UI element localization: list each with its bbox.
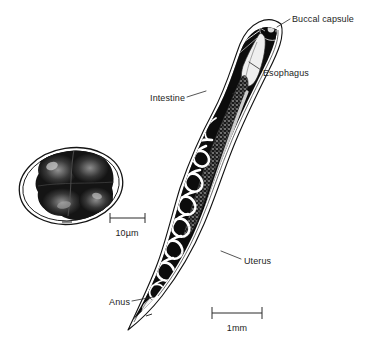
scale-bar-worm: 1mm (212, 307, 262, 333)
tail-tick (146, 314, 152, 316)
scale-bar-egg-label: 10µm (115, 228, 138, 238)
leader-uterus (221, 251, 241, 259)
leader-intestine (187, 91, 206, 97)
label-uterus: Uterus (244, 256, 272, 266)
nematode-figure: Buccal capsule Esophagus Intestine Uteru… (0, 0, 380, 354)
egg-contents (36, 150, 114, 220)
label-intestine: Intestine (150, 93, 185, 103)
label-anus: Anus (109, 297, 130, 307)
figure-canvas: Buccal capsule Esophagus Intestine Uteru… (0, 0, 380, 354)
worm-illustration (110, 10, 300, 340)
scale-bar-egg: 10µm (110, 213, 145, 238)
label-buccal-capsule: Buccal capsule (292, 14, 354, 24)
scale-bar-worm-label: 1mm (227, 323, 247, 333)
egg-blastomere (71, 153, 109, 183)
label-esophagus: Esophagus (263, 68, 309, 78)
